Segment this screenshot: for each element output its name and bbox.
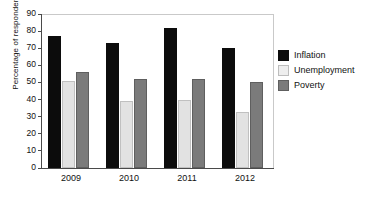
legend-item[interactable]: Poverty [278,78,375,92]
y-axis-ticks: 0102030405060708090 [0,0,41,201]
bar-group [158,14,216,168]
bar-group [216,14,274,168]
bar [250,82,263,168]
legend-label: Inflation [294,50,326,61]
legend-swatch-icon [278,50,289,61]
bar [48,36,61,168]
y-tick-label: 80 [27,25,36,35]
bar [192,79,205,168]
bar-chart: Percentage of respondents 01020304050607… [0,0,377,201]
bar [134,79,147,168]
bar-group [100,14,158,168]
legend-label: Unemployment [294,65,355,76]
bar [62,81,75,168]
y-tick-label: 20 [27,128,36,138]
x-tick-label: 2010 [100,173,158,183]
legend-item[interactable]: Unemployment [278,63,375,77]
bar [120,101,133,168]
x-tick-label: 2011 [158,173,216,183]
legend-label: Poverty [294,80,325,91]
bar-groups [42,14,274,168]
y-tick-label: 30 [27,111,36,121]
bar [236,112,249,168]
x-axis-line [41,168,274,169]
y-tick-label: 40 [27,94,36,104]
bar [106,43,119,168]
y-tick-label: 70 [27,42,36,52]
y-tick-label: 50 [27,76,36,86]
bar [178,100,191,168]
x-tick-label: 2012 [216,173,274,183]
bar [164,28,177,168]
bar [222,48,235,168]
y-tick-label: 90 [27,8,36,18]
y-tick-label: 10 [27,145,36,155]
x-tick-label: 2009 [42,173,100,183]
legend-item[interactable]: Inflation [278,48,375,62]
y-tick-label: 0 [31,162,36,172]
chart-legend: InflationUnemploymentPoverty [278,48,375,93]
bar [76,72,89,168]
legend-swatch-icon [278,65,289,76]
legend-swatch-icon [278,80,289,91]
bar-group [42,14,100,168]
y-tick-label: 60 [27,59,36,69]
x-axis-tick-labels: 2009201020112012 [42,173,274,187]
